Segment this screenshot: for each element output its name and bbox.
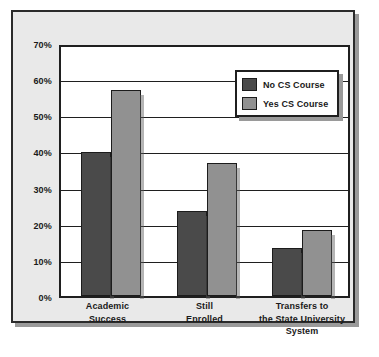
bar-no-cs-still-enrolled xyxy=(177,211,207,296)
x-label-line: Enrolled xyxy=(156,313,253,326)
x-label-line: System xyxy=(247,325,357,338)
legend-item-yes-cs-course: Yes CS Course xyxy=(242,95,332,112)
x-axis-labels: Academic Success Still Enrolled Transfer… xyxy=(59,300,350,357)
x-label-transfers: Transfers to the State University System xyxy=(247,300,357,338)
bar-yes-cs-still-enrolled xyxy=(207,163,237,296)
x-label-line: Success xyxy=(59,313,156,326)
bar-no-cs-transfers xyxy=(272,248,302,296)
y-tick-label: 20% xyxy=(33,221,52,231)
chart-figure: 70% 60% 50% 40% 30% 20% 10% 0% xyxy=(11,10,355,323)
y-axis: 70% 60% 50% 40% 30% 20% 10% 0% xyxy=(13,45,57,298)
legend-swatch-icon xyxy=(242,78,257,91)
x-label-line: Still xyxy=(156,300,253,313)
legend-label: No CS Course xyxy=(263,80,325,90)
x-label-line: Transfers to xyxy=(247,300,357,313)
y-tick-label: 50% xyxy=(33,112,52,122)
y-tick-label: 30% xyxy=(33,185,52,195)
legend-label: Yes CS Course xyxy=(263,99,328,109)
y-tick-label: 10% xyxy=(33,257,52,267)
x-label-academic-success: Academic Success xyxy=(59,300,156,325)
y-tick-label: 60% xyxy=(33,76,52,86)
y-tick-label: 70% xyxy=(33,40,52,50)
bar-no-cs-academic-success xyxy=(81,152,111,296)
chart-panel: 70% 60% 50% 40% 30% 20% 10% 0% xyxy=(11,10,355,323)
bar-yes-cs-transfers xyxy=(302,230,332,297)
y-tick-label: 40% xyxy=(33,148,52,158)
legend-item-no-cs-course: No CS Course xyxy=(242,76,332,93)
bar-yes-cs-academic-success xyxy=(111,90,141,296)
x-label-line: the State University xyxy=(247,313,357,326)
y-tick-label: 0% xyxy=(39,293,52,303)
legend-swatch-icon xyxy=(242,97,257,110)
chart-legend: No CS Course Yes CS Course xyxy=(235,70,339,117)
x-label-still-enrolled: Still Enrolled xyxy=(156,300,253,325)
x-label-line: Academic xyxy=(59,300,156,313)
bar-group-academic-success xyxy=(61,47,157,296)
